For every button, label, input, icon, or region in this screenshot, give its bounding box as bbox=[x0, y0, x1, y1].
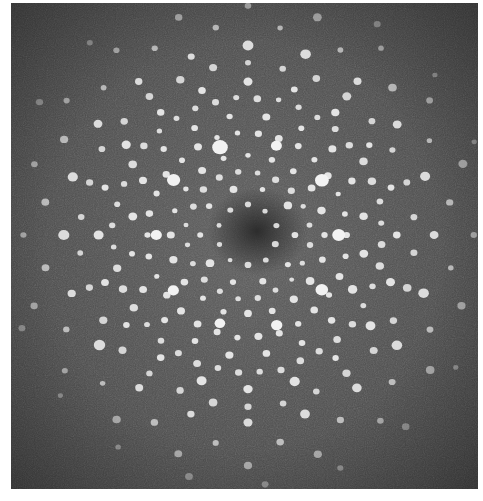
diffraction-pattern-image bbox=[11, 3, 478, 489]
diffraction-spots bbox=[11, 3, 478, 489]
